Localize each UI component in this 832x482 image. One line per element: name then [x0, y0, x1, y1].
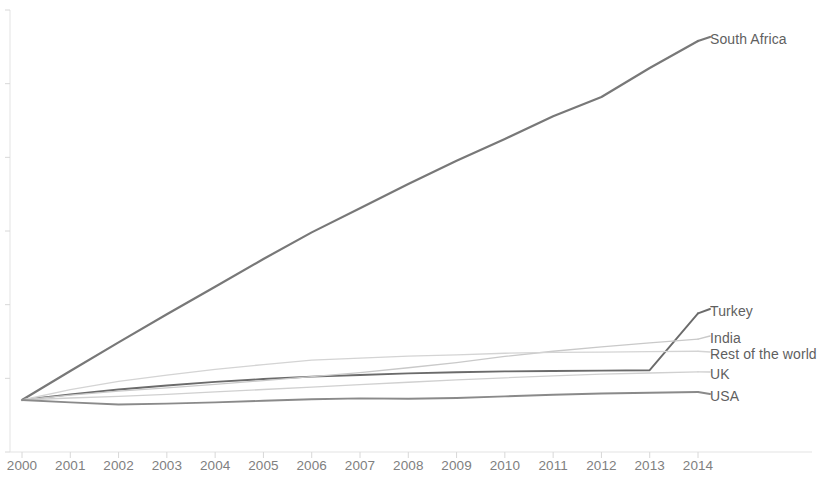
- x-axis-tick-label: 2007: [345, 458, 375, 473]
- label-connector-south-africa: [698, 37, 710, 41]
- x-axis-tick-label: 2006: [296, 458, 326, 473]
- series-label-uk: UK: [710, 366, 730, 382]
- label-connector-usa: [698, 392, 710, 394]
- x-axis-tick-label: 2005: [248, 458, 278, 473]
- series-label-usa: USA: [710, 388, 739, 404]
- series-lines: [22, 41, 698, 404]
- series-line-turkey: [22, 313, 698, 400]
- series-label-turkey: Turkey: [710, 303, 753, 319]
- label-connector-rest-of-the-world: [698, 351, 710, 352]
- x-axis-tick-label: 2014: [683, 458, 713, 473]
- series-line-uk: [22, 372, 698, 400]
- x-axis-tick-label: 2011: [538, 458, 567, 473]
- series-line-south-africa: [22, 41, 698, 400]
- x-axis-tick-label: 2001: [55, 458, 85, 473]
- x-axis-tick-label: 2010: [490, 458, 520, 473]
- line-chart: 2000200120022003200420052006200720082009…: [0, 0, 832, 482]
- series-label-connectors: [698, 37, 710, 394]
- series-line-usa: [22, 392, 698, 404]
- x-axis-tick-label: 2013: [634, 458, 664, 473]
- x-axis-tick-label: 2008: [393, 458, 423, 473]
- y-axis-ticks: [5, 10, 10, 452]
- x-axis-tick-label: 2009: [441, 458, 471, 473]
- x-axis-tick-label: 2003: [152, 458, 182, 473]
- x-axis-tick-label: 2012: [586, 458, 616, 473]
- label-connector-turkey: [698, 309, 710, 313]
- x-axis-tick-label: 2000: [7, 458, 37, 473]
- x-axis-tick-label: 2002: [103, 458, 133, 473]
- chart-plot-area: [0, 0, 832, 482]
- x-axis-tick-label: 2004: [200, 458, 230, 473]
- y-axis: [5, 10, 10, 452]
- series-line-india: [22, 339, 698, 400]
- series-label-india: India: [710, 330, 741, 346]
- series-label-south-africa: South Africa: [710, 31, 787, 47]
- series-label-rest-of-the-world: Rest of the world: [710, 346, 817, 362]
- label-connector-india: [698, 336, 710, 339]
